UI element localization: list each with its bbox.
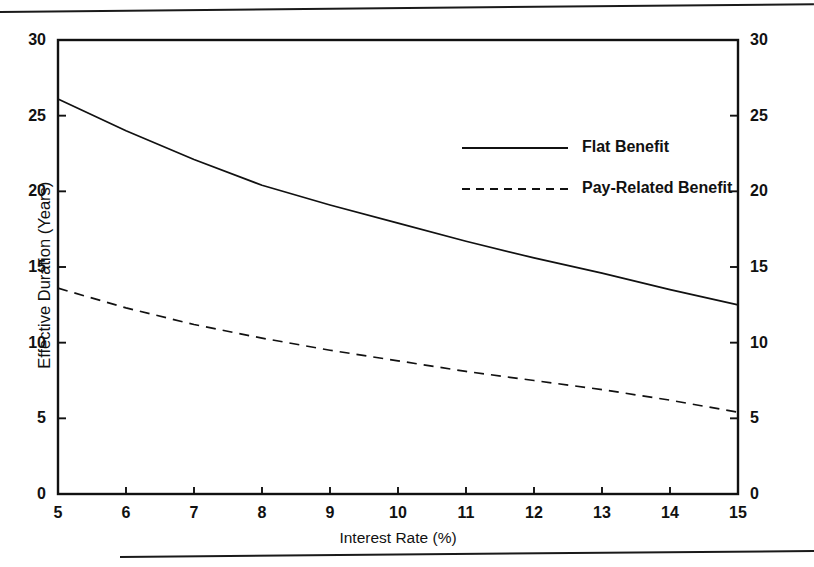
y-tick-label-right-5: 5 bbox=[750, 410, 794, 426]
x-tick-label-14: 14 bbox=[650, 505, 690, 521]
x-tick-label-5: 5 bbox=[38, 505, 78, 521]
x-tick-label-12: 12 bbox=[514, 505, 554, 521]
legend-label-1: Pay-Related Benefit bbox=[582, 180, 732, 196]
y-tick-label-right-15: 15 bbox=[750, 259, 794, 275]
series-line-1 bbox=[58, 288, 738, 412]
plot-canvas bbox=[0, 0, 814, 567]
y-axis-title: Effective Duration (Years) bbox=[36, 145, 53, 405]
x-tick-label-10: 10 bbox=[378, 505, 418, 521]
x-tick-label-7: 7 bbox=[174, 505, 214, 521]
x-tick-label-9: 9 bbox=[310, 505, 350, 521]
series-line-0 bbox=[58, 99, 738, 305]
y-tick-label-right-0: 0 bbox=[750, 486, 794, 502]
y-tick-label-left-30: 30 bbox=[2, 32, 46, 48]
x-tick-label-11: 11 bbox=[446, 505, 486, 521]
tick-marks bbox=[58, 116, 738, 494]
y-tick-label-right-10: 10 bbox=[750, 335, 794, 351]
x-axis-title: Interest Rate (%) bbox=[277, 530, 519, 546]
plot-border bbox=[58, 40, 738, 494]
y-tick-label-left-0: 0 bbox=[2, 486, 46, 502]
y-tick-label-left-5: 5 bbox=[2, 410, 46, 426]
y-tick-label-left-25: 25 bbox=[2, 108, 46, 124]
y-tick-label-right-25: 25 bbox=[750, 108, 794, 124]
x-tick-label-15: 15 bbox=[718, 505, 758, 521]
chart-figure: 051015202530 051015202530 56789101112131… bbox=[0, 0, 814, 567]
legend-swatches bbox=[462, 148, 568, 189]
legend-label-0: Flat Benefit bbox=[582, 139, 669, 155]
x-tick-label-13: 13 bbox=[582, 505, 622, 521]
y-tick-label-right-30: 30 bbox=[750, 32, 794, 48]
axis-frame bbox=[58, 40, 738, 494]
y-tick-label-right-20: 20 bbox=[750, 183, 794, 199]
x-tick-label-6: 6 bbox=[106, 505, 146, 521]
x-tick-label-8: 8 bbox=[242, 505, 282, 521]
